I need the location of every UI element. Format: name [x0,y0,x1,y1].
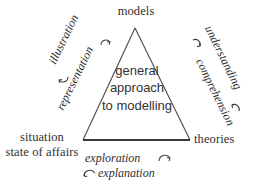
curved-arrow-right-lower-icon [232,104,239,111]
curved-arrow-bottom-upper-icon [159,155,170,161]
center-text-block: general approach to modelling [89,62,185,114]
vertex-label-situation-line1: situation [2,130,82,145]
vertex-label-theories: theories [194,133,234,147]
vertex-label-models: models [108,5,164,19]
vertex-label-situation: situation state of affairs [2,130,82,160]
vertex-label-situation-line2: state of affairs [2,145,82,160]
curved-arrow-left-upper-icon [101,40,110,45]
center-text-line2: approach [89,79,185,96]
modelling-triangle-diagram: models situation state of affairs theori… [0,0,271,188]
center-text-line1: general [89,62,185,79]
edge-label-exploration: exploration [85,152,140,165]
curved-arrow-bottom-lower-icon [84,170,95,176]
center-text-line3: to modelling [89,97,185,114]
edge-label-explanation: explanation [98,167,155,180]
curved-arrow-right-upper-icon [193,39,200,46]
